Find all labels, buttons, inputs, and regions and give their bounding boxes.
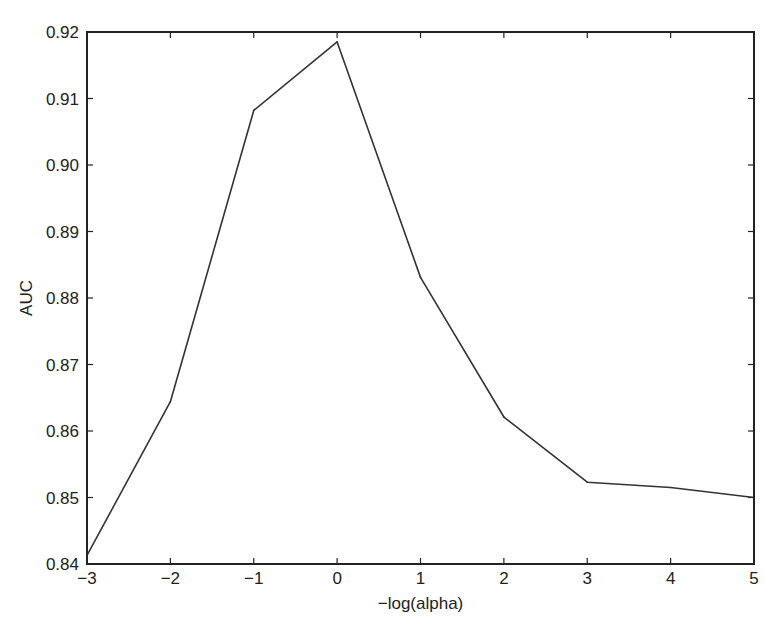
y-tick-label: 0.84 — [46, 555, 79, 574]
y-tick-label: 0.92 — [46, 23, 79, 42]
data-point — [670, 487, 672, 489]
x-tick-label: −3 — [77, 569, 96, 588]
x-tick-label: 5 — [749, 569, 758, 588]
x-tick-label: 1 — [416, 569, 425, 588]
x-tick-label: 0 — [332, 569, 341, 588]
data-point — [253, 110, 255, 112]
y-tick-label: 0.91 — [46, 90, 79, 109]
x-tick-label: 4 — [666, 569, 675, 588]
x-tick-label: 2 — [499, 569, 508, 588]
y-tick-label: 0.89 — [46, 223, 79, 242]
series-layer — [86, 41, 755, 556]
x-tick-label: −1 — [244, 569, 263, 588]
y-tick-label: 0.87 — [46, 356, 79, 375]
data-point — [336, 41, 338, 43]
data-point — [170, 401, 172, 403]
y-tick-label: 0.86 — [46, 422, 79, 441]
plot-frame — [87, 32, 754, 564]
x-tick-label: 3 — [583, 569, 592, 588]
data-point — [420, 277, 422, 279]
auc-line-chart: −3−2−10123450.840.850.860.870.880.890.90… — [0, 0, 765, 628]
x-axis-label: −log(alpha) — [378, 594, 464, 613]
y-tick-label: 0.88 — [46, 289, 79, 308]
ticks-layer — [87, 32, 754, 564]
y-tick-label: 0.90 — [46, 156, 79, 175]
x-tick-label: −2 — [161, 569, 180, 588]
series-line-auc — [87, 42, 754, 555]
data-point — [586, 481, 588, 483]
labels-layer: −3−2−10123450.840.850.860.870.880.890.90… — [46, 23, 759, 588]
y-tick-label: 0.85 — [46, 489, 79, 508]
data-point — [503, 416, 505, 418]
y-axis-label: AUC — [17, 280, 36, 316]
